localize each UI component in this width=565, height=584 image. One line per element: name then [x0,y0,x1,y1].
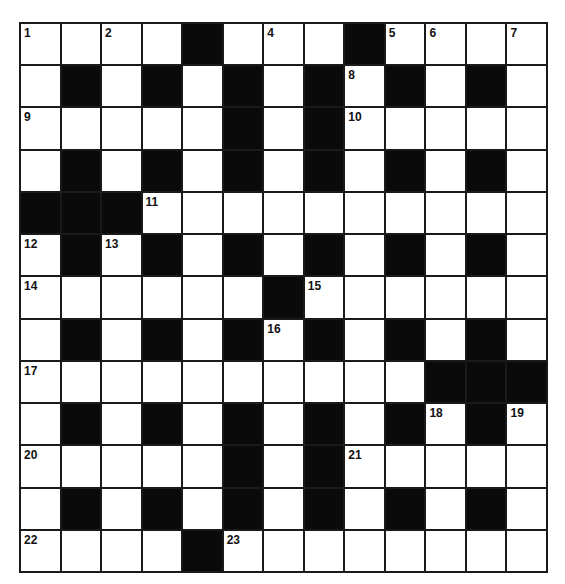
letter-cell[interactable] [467,193,506,233]
letter-cell[interactable] [62,24,101,64]
letter-cell[interactable] [345,151,384,191]
letter-cell[interactable] [143,446,182,486]
letter-cell[interactable] [102,489,141,529]
letter-cell[interactable]: 10 [345,108,384,148]
letter-cell[interactable] [507,446,546,486]
letter-cell[interactable] [426,277,465,317]
letter-cell[interactable] [386,531,425,571]
letter-cell[interactable] [305,193,344,233]
letter-cell[interactable]: 21 [345,446,384,486]
letter-cell[interactable] [183,404,222,444]
letter-cell[interactable] [62,108,101,148]
letter-cell[interactable] [426,151,465,191]
letter-cell[interactable]: 13 [102,235,141,275]
letter-cell[interactable] [21,489,60,529]
letter-cell[interactable] [386,277,425,317]
letter-cell[interactable] [507,531,546,571]
letter-cell[interactable] [62,446,101,486]
letter-cell[interactable] [21,66,60,106]
letter-cell[interactable] [143,24,182,64]
letter-cell[interactable] [183,66,222,106]
letter-cell[interactable] [264,404,303,444]
letter-cell[interactable] [102,320,141,360]
letter-cell[interactable]: 15 [305,277,344,317]
letter-cell[interactable] [102,66,141,106]
letter-cell[interactable] [426,320,465,360]
letter-cell[interactable] [62,277,101,317]
letter-cell[interactable] [21,151,60,191]
letter-cell[interactable] [386,108,425,148]
letter-cell[interactable] [467,446,506,486]
letter-cell[interactable] [386,446,425,486]
letter-cell[interactable]: 17 [21,362,60,402]
letter-cell[interactable]: 9 [21,108,60,148]
letter-cell[interactable] [467,24,506,64]
letter-cell[interactable] [507,108,546,148]
letter-cell[interactable] [426,235,465,275]
letter-cell[interactable] [183,108,222,148]
letter-cell[interactable] [143,108,182,148]
letter-cell[interactable] [183,193,222,233]
letter-cell[interactable] [467,108,506,148]
letter-cell[interactable]: 23 [224,531,263,571]
letter-cell[interactable]: 6 [426,24,465,64]
letter-cell[interactable] [507,489,546,529]
letter-cell[interactable] [183,320,222,360]
letter-cell[interactable] [507,235,546,275]
letter-cell[interactable] [507,151,546,191]
letter-cell[interactable] [467,531,506,571]
letter-cell[interactable] [102,151,141,191]
letter-cell[interactable] [183,362,222,402]
letter-cell[interactable] [264,151,303,191]
letter-cell[interactable] [62,531,101,571]
letter-cell[interactable] [143,277,182,317]
letter-cell[interactable] [345,277,384,317]
letter-cell[interactable] [224,362,263,402]
letter-cell[interactable]: 5 [386,24,425,64]
letter-cell[interactable] [386,362,425,402]
letter-cell[interactable] [102,277,141,317]
letter-cell[interactable] [345,320,384,360]
letter-cell[interactable] [183,277,222,317]
letter-cell[interactable] [183,151,222,191]
letter-cell[interactable] [264,108,303,148]
letter-cell[interactable] [183,446,222,486]
letter-cell[interactable] [345,362,384,402]
letter-cell[interactable] [426,66,465,106]
letter-cell[interactable] [345,404,384,444]
letter-cell[interactable] [224,24,263,64]
letter-cell[interactable]: 18 [426,404,465,444]
letter-cell[interactable] [62,362,101,402]
letter-cell[interactable] [507,320,546,360]
letter-cell[interactable] [264,235,303,275]
letter-cell[interactable] [143,362,182,402]
letter-cell[interactable] [183,489,222,529]
letter-cell[interactable]: 14 [21,277,60,317]
letter-cell[interactable] [507,277,546,317]
letter-cell[interactable] [345,531,384,571]
letter-cell[interactable] [264,362,303,402]
letter-cell[interactable] [21,404,60,444]
letter-cell[interactable]: 16 [264,320,303,360]
letter-cell[interactable] [426,489,465,529]
letter-cell[interactable] [102,404,141,444]
letter-cell[interactable] [264,446,303,486]
letter-cell[interactable] [102,531,141,571]
letter-cell[interactable] [21,320,60,360]
letter-cell[interactable]: 11 [143,193,182,233]
letter-cell[interactable] [305,362,344,402]
letter-cell[interactable] [264,66,303,106]
letter-cell[interactable]: 19 [507,404,546,444]
letter-cell[interactable] [426,108,465,148]
letter-cell[interactable] [102,108,141,148]
letter-cell[interactable]: 7 [507,24,546,64]
letter-cell[interactable] [507,66,546,106]
letter-cell[interactable] [426,193,465,233]
letter-cell[interactable] [264,193,303,233]
letter-cell[interactable] [305,531,344,571]
letter-cell[interactable]: 12 [21,235,60,275]
letter-cell[interactable]: 2 [102,24,141,64]
letter-cell[interactable] [345,193,384,233]
letter-cell[interactable]: 20 [21,446,60,486]
letter-cell[interactable] [426,446,465,486]
